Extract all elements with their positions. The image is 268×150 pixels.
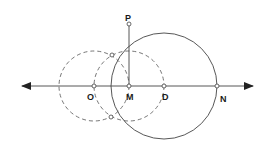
point-d [162,84,166,88]
geometry-diagram: OMDNP [0,0,268,150]
point-i1 [110,53,114,57]
point-n [215,84,219,88]
diagram-svg: OMDNP [0,0,268,150]
label-p: P [125,13,131,23]
label-d: D [162,92,169,102]
point-o [92,84,96,88]
point-i2 [109,115,113,119]
label-m: M [126,92,134,102]
point-m [127,84,131,88]
points-group [92,22,219,119]
label-o: O [87,92,94,102]
label-n: N [220,94,227,104]
